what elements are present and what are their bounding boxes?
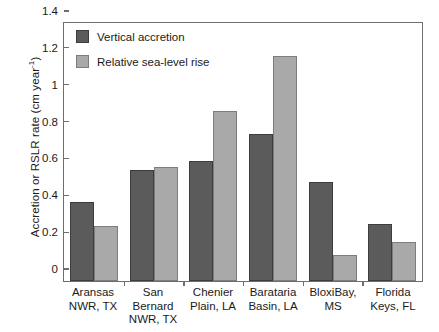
legend-label-vertical-accretion: Vertical accretion xyxy=(97,31,185,43)
bar-group xyxy=(303,23,363,281)
x-axis-category-line: Barataria xyxy=(243,286,303,300)
bar-relative-sea-level-rise xyxy=(94,226,118,281)
x-axis-category-label: SanBernardNWR, TX xyxy=(123,286,183,327)
bar-group xyxy=(362,23,422,281)
x-axis-category-line: San xyxy=(123,286,183,300)
x-axis-category-line: Florida xyxy=(363,286,423,300)
legend-swatch-icon-relative-sea-level-rise xyxy=(76,55,89,68)
x-axis-category-label: BaratariaBasin, LA xyxy=(243,286,303,327)
legend-item-vertical-accretion: Vertical accretion xyxy=(76,30,210,43)
bar-vertical-accretion xyxy=(130,170,154,281)
y-axis-tick-label: 0.2 xyxy=(42,226,64,238)
y-axis-title-text: Accretion or RSLR rate (cm year xyxy=(29,68,41,237)
y-axis-tick-label: 1.4 xyxy=(42,5,64,17)
x-axis-category-line: Chenier xyxy=(183,286,243,300)
x-axis-labels: AransasNWR, TXSanBernardNWR, TXChenierPl… xyxy=(63,286,423,327)
x-axis-category-line: Bernard xyxy=(123,300,183,314)
bar-vertical-accretion xyxy=(309,182,333,282)
x-axis-category-line: NWR, TX xyxy=(63,300,123,314)
x-axis-category-label: FloridaKeys, FL xyxy=(363,286,423,327)
x-axis-category-line: Aransas xyxy=(63,286,123,300)
y-axis-tick-label: 0.4 xyxy=(42,189,64,201)
x-axis-category-line: NWR, TX xyxy=(123,313,183,327)
x-axis-category-line: Keys, FL xyxy=(363,300,423,314)
bar-group xyxy=(243,23,303,281)
y-axis-tick-label: 1 xyxy=(52,79,64,91)
y-axis-tick-label: 0.6 xyxy=(42,152,64,164)
y-axis-tick-mark xyxy=(64,10,69,11)
y-axis-title-exponent: -1 xyxy=(27,61,36,68)
x-axis-category-line: Basin, LA xyxy=(243,300,303,314)
legend-item-relative-sea-level-rise: Relative sea-level rise xyxy=(76,55,210,68)
bar-vertical-accretion xyxy=(70,202,94,281)
chart-legend: Vertical accretion Relative sea-level ri… xyxy=(76,30,210,80)
y-axis-title-suffix: ) xyxy=(29,57,41,61)
x-axis-category-line: MS xyxy=(303,300,363,314)
y-axis-title: Accretion or RSLR rate (cm year-1) xyxy=(27,17,41,277)
bar-relative-sea-level-rise xyxy=(273,56,297,281)
y-axis-tick-label: 1.2 xyxy=(42,42,64,54)
bar-relative-sea-level-rise xyxy=(392,242,416,281)
x-axis-category-line: BloxiBay, xyxy=(303,286,363,300)
bar-vertical-accretion xyxy=(189,161,213,281)
bar-vertical-accretion xyxy=(249,134,273,281)
bar-relative-sea-level-rise xyxy=(333,255,357,281)
bar-relative-sea-level-rise xyxy=(213,111,237,281)
bar-vertical-accretion xyxy=(368,224,392,281)
bar-chart-figure: Accretion or RSLR rate (cm year-1) 00.20… xyxy=(0,0,439,332)
legend-label-relative-sea-level-rise: Relative sea-level rise xyxy=(97,56,210,68)
y-axis-tick-label: 0 xyxy=(52,263,64,275)
x-axis-category-line: Plain, LA xyxy=(183,300,243,314)
legend-swatch-icon-vertical-accretion xyxy=(76,30,89,43)
x-axis-category-label: ChenierPlain, LA xyxy=(183,286,243,327)
y-axis-tick-label: 0.8 xyxy=(42,116,64,128)
bar-relative-sea-level-rise xyxy=(154,167,178,281)
x-axis-category-label: BloxiBay,MS xyxy=(303,286,363,327)
x-axis-category-label: AransasNWR, TX xyxy=(63,286,123,327)
